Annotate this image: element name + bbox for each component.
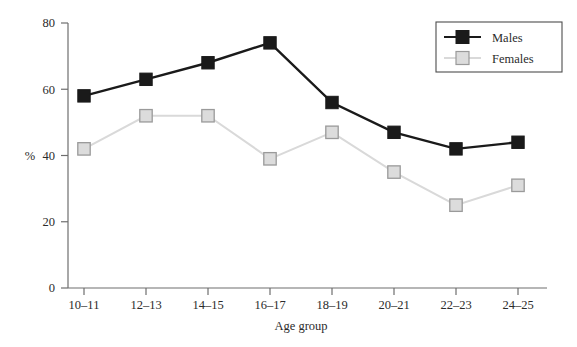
data-point-marker <box>202 110 214 122</box>
data-point-marker <box>450 199 462 211</box>
data-point-marker <box>326 96 338 108</box>
legend-marker-males <box>456 31 469 44</box>
x-tick-label-5: 20–21 <box>378 298 409 312</box>
data-point-marker <box>78 143 90 155</box>
chart-legend: Males Females <box>436 22 562 72</box>
x-tick-label-4: 18–19 <box>316 298 347 312</box>
y-tick-label-40: 40 <box>43 149 56 163</box>
y-tick-label-0: 0 <box>49 281 55 295</box>
data-point-marker <box>140 73 152 85</box>
x-axis-ticks <box>84 288 518 295</box>
data-point-marker <box>512 179 524 191</box>
x-tick-label-2: 14–15 <box>192 298 223 312</box>
legend-label-females: Females <box>492 52 534 66</box>
data-point-marker <box>388 126 400 138</box>
y-tick-label-80: 80 <box>43 16 56 30</box>
legend-label-males: Males <box>492 31 523 45</box>
data-point-marker <box>202 57 214 69</box>
series-line-females <box>84 116 518 205</box>
data-point-marker <box>450 143 462 155</box>
data-point-marker <box>264 37 276 49</box>
data-point-marker <box>140 110 152 122</box>
x-tick-label-0: 10–11 <box>69 298 100 312</box>
chart-plot-area: 80 60 40 20 0 % 10–11 12–13 14–15 16–17 … <box>0 0 577 347</box>
x-tick-label-3: 16–17 <box>254 298 285 312</box>
x-axis-title: Age group <box>274 319 327 333</box>
data-point-marker <box>264 153 276 165</box>
data-point-marker <box>388 166 400 178</box>
y-tick-label-60: 60 <box>43 83 56 97</box>
line-chart-figure: 80 60 40 20 0 % 10–11 12–13 14–15 16–17 … <box>0 0 577 347</box>
y-axis-ticks <box>61 23 68 288</box>
x-tick-label-7: 24–25 <box>502 298 533 312</box>
data-point-marker <box>512 136 524 148</box>
data-point-marker <box>78 90 90 102</box>
series-females <box>78 110 524 212</box>
x-tick-label-1: 12–13 <box>130 298 161 312</box>
data-point-marker <box>326 126 338 138</box>
legend-marker-females <box>456 52 469 65</box>
y-tick-label-20: 20 <box>43 215 56 229</box>
x-tick-label-6: 22–23 <box>440 298 471 312</box>
y-axis-title: % <box>25 149 35 163</box>
